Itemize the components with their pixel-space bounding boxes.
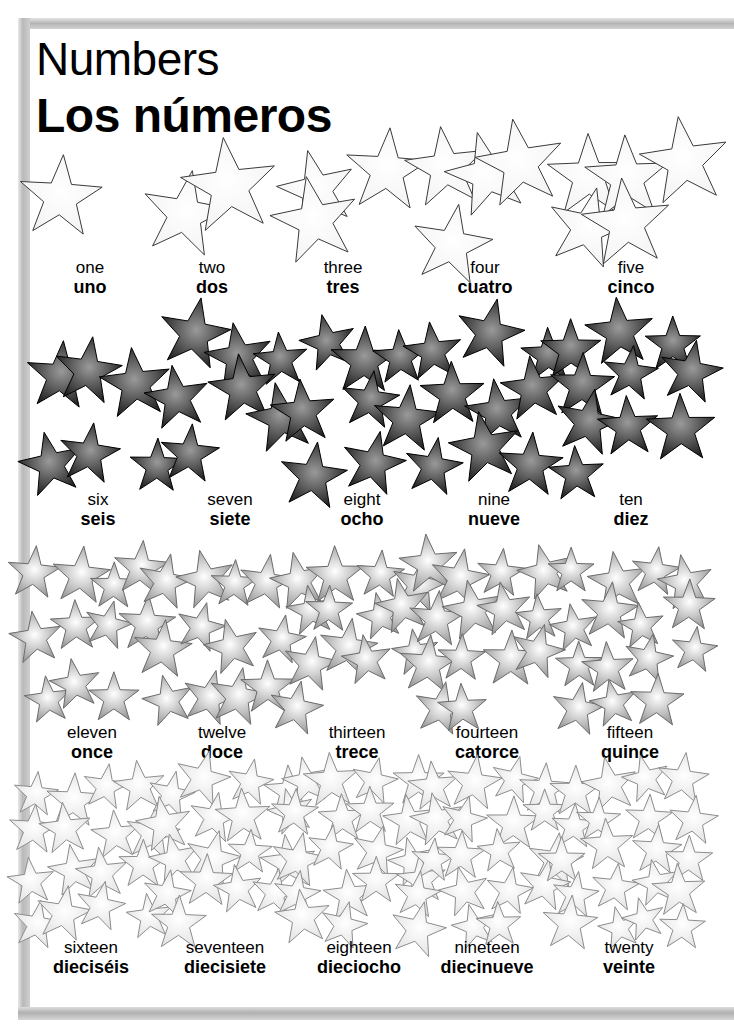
number-labels-9: ninenueve xyxy=(420,490,568,530)
star-shape xyxy=(353,758,398,804)
label-english-12: twelve xyxy=(152,723,292,742)
number-labels-2: twodos xyxy=(152,258,272,298)
star-shape xyxy=(299,315,353,370)
label-english-7: seven xyxy=(160,490,300,509)
number-labels-3: threetres xyxy=(280,258,406,298)
star-shape xyxy=(410,591,465,645)
number-labels-20: twentyveinte xyxy=(548,938,710,978)
star-shape xyxy=(50,600,101,649)
star-cluster-4 xyxy=(418,140,552,266)
number-labels-19: nineteendiecinueve xyxy=(408,938,566,978)
star-cluster-1 xyxy=(30,140,150,266)
star-cluster-16 xyxy=(16,762,166,946)
star-shape xyxy=(448,755,502,809)
label-english-2: two xyxy=(152,258,272,277)
number-labels-14: fourteencatorce xyxy=(412,723,562,763)
number-labels-10: tendiez xyxy=(556,490,706,530)
star-cluster-3 xyxy=(280,140,406,266)
star-shape xyxy=(646,393,714,459)
label-english-17: seventeen xyxy=(150,938,300,957)
star-shape xyxy=(549,604,596,651)
number-labels-4: fourcuatro xyxy=(418,258,552,298)
star-shape xyxy=(459,299,525,366)
number-labels-17: seventeendiecisiete xyxy=(150,938,300,978)
star-cluster-10 xyxy=(556,310,706,498)
numbers-poster: Numbers Los números oneunotwodosthreetre… xyxy=(0,0,734,1033)
label-english-1: one xyxy=(30,258,150,277)
star-shape xyxy=(161,424,219,481)
star-shape xyxy=(581,757,635,812)
label-spanish-14: catorce xyxy=(412,742,562,763)
star-shape xyxy=(499,432,563,494)
star-shape xyxy=(593,863,640,910)
star-shape xyxy=(20,155,102,234)
star-shape xyxy=(8,546,61,597)
poster-frame-top xyxy=(18,18,734,29)
label-english-5: five xyxy=(556,258,706,277)
page-title-english: Numbers xyxy=(36,36,219,82)
label-english-13: thirteen xyxy=(284,723,430,742)
star-shape xyxy=(631,673,684,724)
page-title-spanish: Los números xyxy=(36,92,332,140)
label-spanish-19: diecinueve xyxy=(408,957,566,978)
label-english-11: eleven xyxy=(22,723,162,742)
star-shape xyxy=(597,396,657,454)
number-labels-6: sixseis xyxy=(28,490,168,530)
star-cluster-12 xyxy=(152,545,292,731)
label-english-3: three xyxy=(280,258,406,277)
label-spanish-13: trece xyxy=(284,742,430,763)
label-spanish-9: nueve xyxy=(420,509,568,530)
star-cluster-15 xyxy=(552,545,708,731)
star-cluster-20 xyxy=(548,762,710,946)
number-labels-11: elevenonce xyxy=(22,723,162,763)
label-spanish-8: ocho xyxy=(292,509,432,530)
label-spanish-2: dos xyxy=(152,277,272,298)
number-labels-8: eightocho xyxy=(292,490,432,530)
label-spanish-7: siete xyxy=(160,509,300,530)
label-spanish-1: uno xyxy=(30,277,150,298)
star-shape xyxy=(420,361,484,422)
star-shape xyxy=(87,601,133,648)
label-english-9: nine xyxy=(420,490,568,509)
star-cluster-5 xyxy=(556,140,706,266)
star-shape xyxy=(99,348,169,417)
star-shape xyxy=(7,857,53,903)
star-shape xyxy=(622,755,667,802)
label-spanish-6: seis xyxy=(28,509,168,530)
label-spanish-11: once xyxy=(22,742,162,763)
label-spanish-12: doce xyxy=(152,742,292,763)
label-spanish-16: dieciséis xyxy=(16,957,166,978)
number-labels-12: twelvedoce xyxy=(152,723,292,763)
star-cluster-14 xyxy=(412,545,562,731)
star-shape xyxy=(548,547,594,591)
number-labels-16: sixteendieciséis xyxy=(16,938,166,978)
number-labels-7: sevensiete xyxy=(160,490,300,530)
label-english-20: twenty xyxy=(548,938,710,957)
star-cluster-8 xyxy=(292,310,432,498)
star-shape xyxy=(345,431,407,494)
label-spanish-20: veinte xyxy=(548,957,710,978)
label-english-14: fourteen xyxy=(412,723,562,742)
label-spanish-5: cinco xyxy=(556,277,706,298)
number-labels-5: fivecinco xyxy=(556,258,706,298)
label-spanish-3: tres xyxy=(280,277,406,298)
label-english-15: fifteen xyxy=(552,723,708,742)
star-shape xyxy=(229,759,274,804)
label-english-4: four xyxy=(418,258,552,277)
label-english-6: six xyxy=(28,490,168,509)
label-english-19: nineteen xyxy=(408,938,566,957)
star-cluster-2 xyxy=(152,140,272,266)
label-english-10: ten xyxy=(556,490,706,509)
star-cluster-9 xyxy=(420,310,568,498)
star-shape xyxy=(318,794,366,840)
label-spanish-17: diecisiete xyxy=(150,957,300,978)
star-cluster-17 xyxy=(150,762,300,946)
star-shape xyxy=(89,672,139,720)
star-shape xyxy=(38,886,92,940)
number-labels-13: thirteentrece xyxy=(284,723,430,763)
label-english-16: sixteen xyxy=(16,938,166,957)
star-shape xyxy=(53,546,110,602)
star-cluster-13 xyxy=(284,545,430,731)
label-spanish-4: cuatro xyxy=(418,277,552,298)
label-spanish-10: diez xyxy=(556,509,706,530)
